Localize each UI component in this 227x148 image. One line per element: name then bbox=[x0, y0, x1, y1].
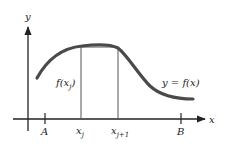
partition-label-xj: xj bbox=[76, 125, 85, 139]
xj1-sub: j+1 bbox=[115, 131, 130, 139]
curve-label: y = f(x) bbox=[161, 77, 200, 88]
rect-height-base: f(x bbox=[55, 77, 70, 88]
tick-label-b: B bbox=[176, 126, 184, 137]
function-curve bbox=[37, 45, 193, 99]
x-axis-label: x bbox=[209, 114, 215, 125]
riemann-diagram: y x y = f(x) f(xj) A B xj xj+1 bbox=[0, 0, 227, 148]
rect-height-close: ) bbox=[70, 77, 75, 88]
rect-height-label: f(xj) bbox=[55, 77, 75, 91]
y-axis-label: y bbox=[24, 11, 31, 22]
tick-label-a: A bbox=[40, 126, 48, 137]
partition-label-xj1: xj+1 bbox=[111, 125, 129, 139]
